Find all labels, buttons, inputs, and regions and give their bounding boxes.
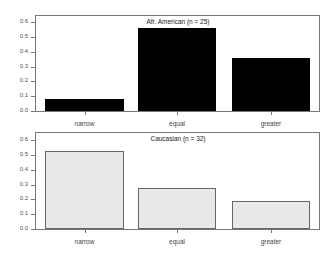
x-tick (85, 112, 86, 115)
y-tick-label: 0.1 (10, 92, 28, 98)
y-tick (31, 111, 35, 112)
y-tick-label: 0.2 (10, 77, 28, 83)
y-tick (31, 214, 35, 215)
y-tick (31, 22, 35, 23)
y-tick (31, 199, 35, 200)
x-tick-label: narrow (55, 120, 115, 127)
y-tick (31, 170, 35, 171)
x-tick (85, 230, 86, 233)
bar-narrow (45, 151, 124, 229)
x-tick-label: narrow (55, 238, 115, 245)
y-tick (31, 52, 35, 53)
y-tick-label: 0.3 (10, 63, 28, 69)
y-tick-label: 0.5 (10, 151, 28, 157)
y-tick-label: 0.6 (10, 136, 28, 142)
bar-narrow (45, 99, 124, 111)
panel-title: Afr. American (n = 25) (78, 18, 278, 25)
bar-greater (232, 58, 310, 111)
y-tick (31, 96, 35, 97)
y-tick (31, 67, 35, 68)
y-tick-label: 0.4 (10, 166, 28, 172)
y-tick-label: 0.2 (10, 195, 28, 201)
y-tick-label: 0.4 (10, 48, 28, 54)
bar-greater (232, 201, 310, 229)
y-tick (31, 140, 35, 141)
x-tick (177, 112, 178, 115)
x-tick-label: equal (147, 120, 207, 127)
panel-title: Caucasian (n = 32) (78, 135, 278, 142)
y-tick (31, 81, 35, 82)
y-tick-label: 0.6 (10, 18, 28, 24)
bar-equal (138, 188, 216, 229)
y-tick-label: 0.1 (10, 210, 28, 216)
y-tick (31, 37, 35, 38)
y-tick-label: 0.0 (10, 107, 28, 113)
y-tick (31, 155, 35, 156)
y-tick-label: 0.3 (10, 181, 28, 187)
y-tick-label: 0.5 (10, 33, 28, 39)
x-tick (177, 230, 178, 233)
x-tick (271, 230, 272, 233)
y-tick-label: 0.0 (10, 225, 28, 231)
x-tick-label: greater (241, 238, 301, 245)
x-tick-label: equal (147, 238, 207, 245)
x-tick-label: greater (241, 120, 301, 127)
x-tick (271, 112, 272, 115)
bar-equal (138, 28, 216, 111)
y-tick (31, 229, 35, 230)
y-tick (31, 185, 35, 186)
